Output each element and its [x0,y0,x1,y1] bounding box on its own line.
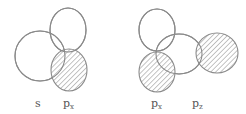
label-subscript: x [70,103,74,111]
label-subscript: z [199,103,203,111]
label-subscript: x [158,103,162,111]
label-base: p [63,97,70,110]
label-base: p [192,97,199,110]
left-diagram-s-px-overlap [15,8,87,91]
left-label-px: px [63,98,74,111]
left-px-lobe-top-outline [50,8,86,52]
right-label-px: px [151,98,162,111]
left-label-s: s [35,98,41,109]
label-base: p [151,97,158,110]
right-px-lobe-top-outline [139,9,175,51]
right-label-pz: pz [192,98,203,111]
left-px-lobe-bottom-shaded-shape [51,49,87,91]
label-base: s [35,97,41,110]
right-diagram-px-pz-overlap [139,9,238,92]
